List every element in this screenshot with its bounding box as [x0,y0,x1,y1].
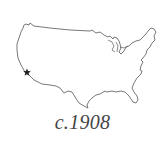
date-caption: c.1908 [0,111,165,134]
star-icon [23,69,31,76]
us-outline-path [17,23,156,108]
great-lakes-path [108,40,128,52]
